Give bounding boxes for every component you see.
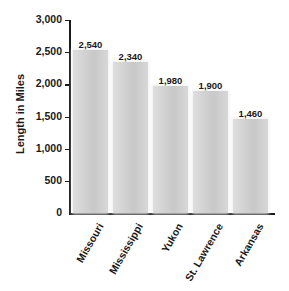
y-tick-label: 3,000 bbox=[12, 13, 62, 25]
y-tick-label: 1,500 bbox=[12, 110, 62, 122]
y-tick-mark bbox=[65, 117, 69, 118]
y-tick-label: 0 bbox=[12, 206, 62, 218]
bar-value-label: 1,900 bbox=[186, 80, 236, 91]
bar-value-label: 1,460 bbox=[226, 108, 276, 119]
y-tick-label: 500 bbox=[12, 174, 62, 186]
bar bbox=[193, 91, 228, 213]
bar-value-label: 2,540 bbox=[66, 39, 116, 50]
x-category-label: Yukon bbox=[158, 221, 184, 254]
x-axis-line bbox=[69, 213, 275, 215]
bar bbox=[113, 62, 148, 213]
y-tick-label: 2,500 bbox=[12, 45, 62, 57]
y-tick-mark bbox=[65, 20, 69, 21]
bar-value-label: 2,340 bbox=[106, 51, 156, 62]
y-tick-label: 1,000 bbox=[12, 142, 62, 154]
y-tick-mark bbox=[65, 181, 69, 182]
x-category-label: Mississippi bbox=[106, 221, 145, 276]
x-category-label: Arkansas bbox=[231, 221, 265, 268]
y-tick-mark bbox=[65, 149, 69, 150]
x-category-label: Missouri bbox=[73, 221, 105, 264]
bar-chart: Length in Miles 05001,0001,5002,0002,500… bbox=[0, 0, 289, 291]
bar bbox=[73, 50, 108, 213]
y-tick-mark bbox=[65, 52, 69, 53]
y-tick-mark bbox=[65, 84, 69, 85]
x-category-label: St. Lawrence bbox=[182, 221, 225, 283]
bar bbox=[233, 119, 268, 213]
y-tick-label: 2,000 bbox=[12, 77, 62, 89]
bar bbox=[153, 86, 188, 213]
